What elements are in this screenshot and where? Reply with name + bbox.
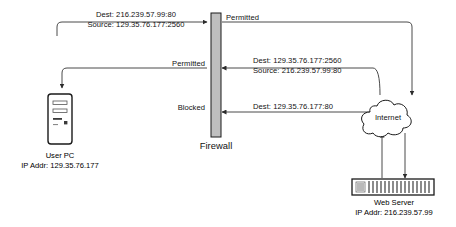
firewall-barrier: [211, 13, 221, 137]
firewall-caption: Firewall: [186, 140, 246, 151]
flow-outbound-verdict-label: Permitted: [226, 13, 259, 22]
flow-blocked-dest-label: Dest: 129.35.76.177:80: [253, 102, 333, 111]
flow-inbound-dest-label: Dest: 129.35.76.177:2560: [253, 56, 342, 65]
user-pc-caption-name: User PC: [0, 151, 120, 160]
web-server-caption-name: Web Server: [336, 198, 452, 207]
web-server-icon: [352, 179, 434, 195]
web-server-caption-ip: IP Addr: 216.239.57.99: [336, 208, 452, 217]
flow-outbound-source-label: Source: 129.35.76.177:2560: [65, 20, 207, 29]
flow-blocked-verdict-label: Blocked: [130, 103, 205, 112]
user-pc-icon: [48, 94, 72, 144]
user-pc-caption-ip: IP Addr: 129.35.76.177: [0, 161, 120, 170]
flow-outbound-dest-label: Dest: 216.239.57.99:80: [70, 10, 202, 19]
internet-caption: Internet: [367, 113, 409, 122]
flow-inbound-response-left-path: [62, 68, 207, 88]
flow-inbound-verdict-label: Permitted: [120, 59, 205, 68]
flow-inbound-source-label: Source: 216.239.57.99:80: [253, 66, 342, 75]
network-firewall-diagram: Dest: 216.239.57.99:80 Source: 129.35.76…: [0, 0, 456, 227]
